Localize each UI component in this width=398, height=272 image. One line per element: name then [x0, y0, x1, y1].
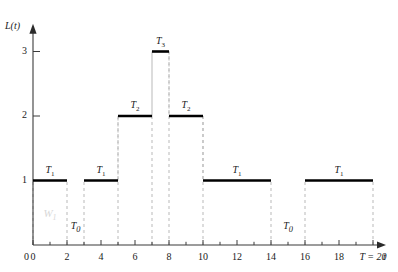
y-tick-label: 2 [3, 110, 27, 120]
waiting-time-annotation: W1 [30, 208, 70, 222]
y-axis-arrow [29, 24, 36, 34]
x-tick-label-end: T = 20 [345, 252, 398, 262]
step-segment-label: T1 [314, 165, 364, 178]
step-segment-label: T1 [212, 165, 262, 178]
step-segment-label: T2 [110, 100, 160, 113]
y-tick-label: 3 [3, 46, 27, 56]
idle-gap-label: T0 [51, 221, 101, 234]
step-segment-label: T1 [76, 165, 126, 178]
step-function-chart: L(t) t 024681012141618T = 200 123 T1T1T2… [0, 0, 398, 272]
drop-line-group [33, 52, 373, 246]
idle-gap-label: T0 [263, 221, 313, 234]
step-segment-label: T3 [136, 36, 186, 49]
axes-group [29, 24, 386, 249]
x-tick-marks [33, 240, 373, 245]
y-axis-label: L(t) [5, 21, 20, 31]
x-axis-arrow [377, 241, 386, 248]
origin-label: 0 [5, 252, 29, 262]
y-tick-marks [33, 52, 40, 181]
step-segment-label: T2 [161, 100, 211, 113]
step-segment-group [33, 52, 373, 181]
step-segment-label: T1 [25, 165, 75, 178]
y-tick-label: 1 [3, 175, 27, 185]
